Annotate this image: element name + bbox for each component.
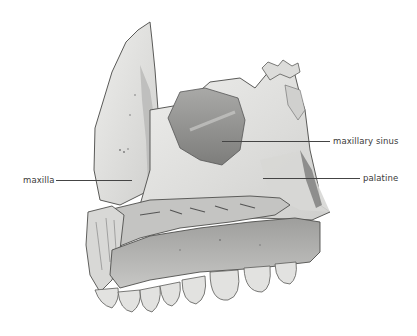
leader-line-maxillary-sinus [222, 141, 330, 142]
leader-line-palatine [263, 178, 360, 179]
maxilla-illustration [0, 0, 417, 336]
anatomy-figure [0, 0, 417, 336]
label-maxillary-sinus: maxillary sinus [333, 136, 399, 146]
label-maxilla: maxilla [23, 175, 55, 185]
label-palatine: palatine [363, 173, 398, 183]
leader-line-maxilla [56, 180, 132, 181]
